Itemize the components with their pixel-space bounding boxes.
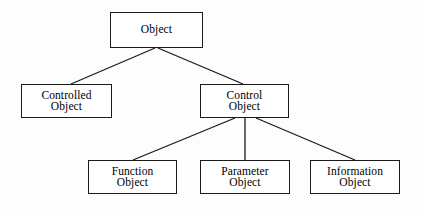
edge-object-to-controlled-object [71,48,155,84]
diagram-canvas: Object Controlled Object Control Object … [0,0,423,210]
node-controlled-object-label-line-2: Object [51,101,82,113]
node-information-object[interactable]: Information Object [310,160,400,194]
node-parameter-object[interactable]: Parameter Object [200,160,290,194]
node-information-object-label-line-2: Object [339,177,370,189]
edge-control-object-to-function-object [133,118,235,160]
node-function-object[interactable]: Function Object [88,160,177,194]
node-parameter-object-label-line-2: Object [229,177,260,189]
node-control-object-label-line-2: Object [229,101,260,113]
node-function-object-label-line-2: Object [117,177,148,189]
node-control-object[interactable]: Control Object [200,84,289,118]
edge-control-object-to-information-object [256,118,355,160]
node-object[interactable]: Object [110,12,203,48]
node-object-label-line-1: Object [141,24,172,36]
node-controlled-object[interactable]: Controlled Object [21,84,112,118]
edge-object-to-control-object [158,48,243,84]
